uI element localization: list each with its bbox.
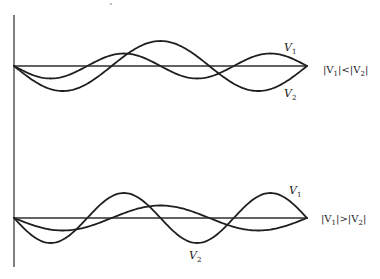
diagram-canvas: V1 V2 |V1|<|V2| V1 V2 |V1|>|V2|	[0, 0, 380, 279]
top-label-v2: V2	[284, 87, 296, 102]
bottom-label-v1: V1	[289, 184, 301, 199]
top-label-v1: V1	[284, 41, 296, 56]
top-condition-label: |V1|<|V2|	[323, 64, 368, 78]
bottom-label-v2: V2	[189, 249, 201, 264]
bottom-condition-label: |V1|>|V2|	[321, 213, 366, 227]
panel-top: V1 V2 |V1|<|V2|	[14, 41, 368, 102]
print-speck	[110, 3, 112, 5]
standing-waves-diagram: V1 V2 |V1|<|V2| V1 V2 |V1|>|V2|	[0, 0, 380, 279]
panel-bottom: V1 V2 |V1|>|V2|	[14, 184, 366, 264]
